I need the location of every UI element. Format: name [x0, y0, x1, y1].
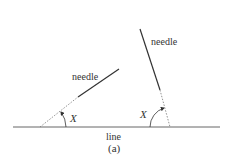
baseline-label: line: [106, 131, 122, 142]
left-angle-label: X: [69, 112, 78, 124]
figure-caption: (a): [108, 142, 121, 155]
diagram-svg: X needle X needle line (a): [0, 0, 234, 165]
right-needle-extension: [160, 90, 170, 127]
left-angle-arc: [61, 112, 66, 127]
right-angle-label: X: [139, 108, 148, 120]
left-needle: X needle: [40, 69, 119, 127]
right-needle-label: needle: [151, 36, 178, 47]
needle-diagram: X needle X needle line (a): [0, 0, 234, 165]
left-needle-label: needle: [72, 71, 99, 82]
right-needle: X needle: [139, 29, 178, 127]
right-angle-arc: [150, 108, 164, 127]
